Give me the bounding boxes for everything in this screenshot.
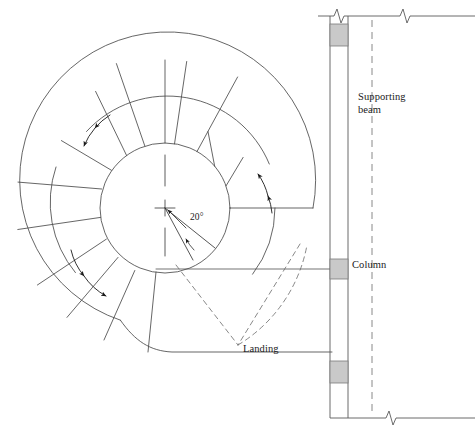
supporting-beam-label: Supporting beam	[358, 90, 406, 117]
landing-dashed-left	[176, 265, 238, 345]
stair-well-geometry	[18, 32, 332, 352]
landing-bottom-edge	[120, 320, 332, 352]
tread-angle-label: 20°	[190, 211, 204, 223]
angle-leader-b	[165, 208, 193, 260]
arrow-upper-left-2	[84, 128, 95, 146]
landing-label: Landing	[243, 342, 279, 355]
landing-dashed-lines	[176, 244, 307, 345]
arrow-right-2	[258, 174, 268, 196]
mid-arc-right	[253, 208, 275, 274]
wall-line-top	[318, 9, 475, 23]
arrow-right-1	[268, 196, 272, 213]
angle-arc	[186, 239, 194, 250]
landing-dashed-right	[238, 244, 300, 345]
center-axis-marks	[155, 155, 175, 256]
mid-arc-lower-left	[50, 167, 75, 273]
landing-right-edge	[313, 208, 332, 268]
column-bottom	[330, 361, 348, 383]
column-label: Column	[352, 258, 386, 271]
landing-dashed-arc	[238, 245, 307, 345]
supporting-beam-assembly	[318, 9, 475, 425]
spiral-staircase-drawing: Supporting beam Column Landing 20°	[0, 0, 475, 436]
outer-wall-arc	[20, 32, 316, 320]
plan-drawing-canvas	[0, 0, 475, 436]
column-top	[330, 24, 348, 46]
column-middle	[330, 259, 348, 279]
wall-line-bottom	[330, 411, 475, 425]
arrow-lower-left-1	[71, 250, 84, 276]
